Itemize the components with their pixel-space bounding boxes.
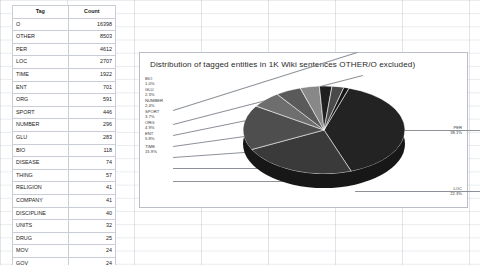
cell-tag: ENT [13,81,69,94]
table-row: OTHER8503 [13,31,116,44]
cell-count: 2707 [68,56,115,69]
cell-tag: BIO [13,144,69,157]
pie-label-time-pct: 15.9% [145,149,157,154]
table-row: TIME1922 [13,68,116,81]
table-row: UNITS32 [13,220,116,233]
cell-count: 118 [68,144,115,157]
table-row: PER4612 [13,43,116,56]
cell-tag: ORG [13,94,69,107]
cell-count: 74 [68,157,115,170]
cell-tag: MOV [13,245,69,258]
table-row: ENT701 [13,81,116,94]
cell-tag: GOV [13,257,69,265]
cell-count: 24 [68,257,115,265]
table-row: DRUG25 [13,232,116,245]
cell-tag: DRUG [13,232,69,245]
pie-label-number-pct: 2.4% [145,103,163,108]
pie-label-per: PER 38.1% [450,125,462,135]
chart-container[interactable]: Distribution of tagged entities in 1K Wi… [139,52,468,208]
pie-label-per-pct: 38.1% [450,130,462,135]
cell-count: 283 [68,131,115,144]
cell-tag: SPORT [13,106,69,119]
cell-count: 8503 [68,31,115,44]
table-row: SPORT446 [13,106,116,119]
pie-label-ent: ENT 5.8% [145,131,155,141]
cell-tag: RELIGION [13,182,69,195]
pie-top-surface [243,86,405,174]
pie-label-time: TIME 15.9% [145,144,157,154]
pie-label-loc-pct: 22.3% [450,191,462,196]
table-row: GLU283 [13,131,116,144]
pie-chart[interactable] [243,86,405,194]
cell-count: 32 [68,220,115,233]
pie-label-bio: BIO 1.0% [145,76,155,86]
table-row: MOV24 [13,245,116,258]
cell-count: 296 [68,119,115,132]
chart-title: Distribution of tagged entities in 1K Wi… [150,60,415,69]
cell-tag: UNITS [13,220,69,233]
table-header-row: Tag Count [13,6,116,19]
cell-tag: COMPANY [13,194,69,207]
cell-count: 41 [68,182,115,195]
cell-count: 25 [68,232,115,245]
cell-count: 446 [68,106,115,119]
cell-tag: THING [13,169,69,182]
table-row: DISCIPLINE40 [13,207,116,220]
cell-tag: PER [13,43,69,56]
cell-tag: LOC [13,56,69,69]
pie-label-loc: LOC 22.3% [450,186,462,196]
cell-count: 701 [68,81,115,94]
column-header-count: Count [68,6,115,19]
pie-label-bio-pct: 1.0% [145,81,155,86]
pie-label-sport-pct: 3.7% [145,114,159,119]
table-row: BIO118 [13,144,116,157]
table-row: ORG591 [13,94,116,107]
cell-count: 16398 [68,18,115,31]
tag-count-table: Tag Count O16398OTHER8503PER4612LOC2707T… [12,5,116,265]
cell-count: 591 [68,94,115,107]
pie-label-number: NUMBER 2.4% [145,98,163,108]
pie-label-org: ORG 4.9% [145,120,155,130]
pie-label-ent-pct: 5.8% [145,136,155,141]
table-row: O16398 [13,18,116,31]
cell-count: 4612 [68,43,115,56]
cell-tag: NUMBER [13,119,69,132]
cell-count: 1922 [68,68,115,81]
table-row: RELIGION41 [13,182,116,195]
cell-tag: O [13,18,69,31]
table-row: COMPANY41 [13,194,116,207]
cell-count: 41 [68,194,115,207]
table-row: DISEASE74 [13,157,116,170]
table-row: LOC2707 [13,56,116,69]
pie-label-org-pct: 4.9% [145,125,155,130]
cell-tag: DISEASE [13,157,69,170]
cell-count: 24 [68,245,115,258]
column-header-tag: Tag [13,6,69,19]
cell-tag: GLU [13,131,69,144]
pie-label-glu: GLU 2.3% [145,87,155,97]
cell-count: 40 [68,207,115,220]
table-row: NUMBER296 [13,119,116,132]
table-row: THING57 [13,169,116,182]
cell-count: 57 [68,169,115,182]
cell-tag: OTHER [13,31,69,44]
pie-label-sport: SPORT 3.7% [145,109,159,119]
cell-tag: TIME [13,68,69,81]
pie-label-glu-pct: 2.3% [145,92,155,97]
table-row: GOV24 [13,257,116,265]
cell-tag: DISCIPLINE [13,207,69,220]
